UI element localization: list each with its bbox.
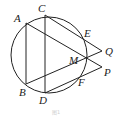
label-m: M bbox=[68, 54, 79, 66]
label-c: C bbox=[38, 2, 46, 14]
segment-bq bbox=[26, 51, 102, 84]
label-b: B bbox=[19, 86, 26, 98]
geometry-figure: A C E Q M P B D F 图1 bbox=[0, 0, 126, 118]
label-f: F bbox=[77, 76, 85, 88]
figure-caption: 图1 bbox=[52, 109, 60, 116]
label-q: Q bbox=[105, 45, 113, 57]
label-d: D bbox=[38, 94, 47, 106]
label-a: A bbox=[13, 12, 21, 24]
label-p: P bbox=[103, 66, 111, 78]
segment-cq bbox=[45, 15, 102, 51]
label-e: E bbox=[83, 27, 91, 39]
segment-dp bbox=[45, 67, 102, 93]
